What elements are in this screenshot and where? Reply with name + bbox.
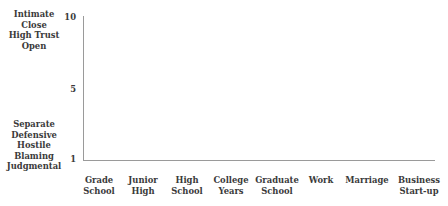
x-category: Junior High [118,175,168,197]
y-axis-line [83,16,84,161]
x-category: Grade School [74,175,124,197]
x-category-line: Marriage [342,175,392,186]
y-tick-10: 10 [62,12,76,22]
y-annotation-label: High Trust [2,30,66,41]
x-category-line: Grade [74,175,124,186]
x-category-line: Junior [118,175,168,186]
x-category-line: Business [394,175,444,186]
y-tick-5: 5 [62,84,76,94]
y-annotation-bottom: Separate Defensive Hostile Blaming Judgm… [2,119,66,172]
x-category: High School [162,175,212,197]
y-annotation-top: Intimate Close High Trust Open [2,9,66,51]
x-category: Graduate School [252,175,302,197]
x-category: Marriage [342,175,392,186]
x-axis-line [83,160,435,161]
y-annotation-label: Open [2,41,66,52]
x-category-line: College [206,175,256,186]
y-annotation-label: Judgmental [2,161,66,172]
y-annotation-label: Hostile [2,140,66,151]
x-category-line: School [162,186,212,197]
y-annotation-label: Intimate [2,9,66,20]
y-annotation-label: Close [2,20,66,31]
y-annotation-label: Defensive [2,130,66,141]
x-category-line: Graduate [252,175,302,186]
x-category-line: High [162,175,212,186]
y-annotation-label: Blaming [2,151,66,162]
y-tick-1: 1 [62,154,76,164]
x-category-line: Work [296,175,346,186]
x-category-line: School [74,186,124,197]
x-category: Business Start-up [394,175,444,197]
x-category: College Years [206,175,256,197]
y-annotation-label: Separate [2,119,66,130]
x-category-line: High [118,186,168,197]
x-category: Work [296,175,346,186]
x-category-line: Start-up [394,186,444,197]
x-category-line: School [252,186,302,197]
x-category-line: Years [206,186,256,197]
